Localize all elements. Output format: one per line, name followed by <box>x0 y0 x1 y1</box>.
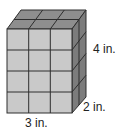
length-label: 3 in. <box>25 117 48 129</box>
height-label: 4 in. <box>93 43 116 55</box>
prism-diagram: 4 in. 2 in. 3 in. <box>0 0 118 133</box>
width-label: 2 in. <box>83 101 106 113</box>
